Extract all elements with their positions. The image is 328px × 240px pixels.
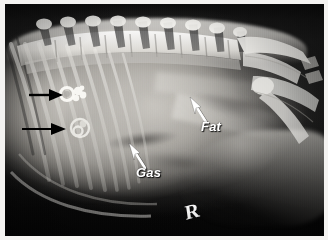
dorsal-muscle-band xyxy=(7,18,307,64)
film-vignette xyxy=(5,4,324,236)
mineral-opacity-caudal xyxy=(65,115,95,141)
pelvis-and-femur xyxy=(5,4,324,236)
ribcage xyxy=(5,4,324,236)
radiograph-plate: Fat Gas R xyxy=(5,4,324,236)
annotation-label-fat: Fat xyxy=(201,119,221,134)
film-grain xyxy=(5,4,324,236)
abdomen-soft-tissue-inner xyxy=(65,38,275,188)
annotation-label-gas: Gas xyxy=(136,165,161,180)
hindlimb-soft-tissue xyxy=(181,130,324,226)
fat-plane-dorsal xyxy=(154,72,275,104)
black-arrow-upper xyxy=(29,87,63,103)
film-background xyxy=(5,4,324,236)
side-marker-r: R xyxy=(184,198,201,224)
radiograph-figure: Fat Gas R xyxy=(0,0,328,240)
lumbar-spine xyxy=(5,4,324,236)
black-arrow-lower xyxy=(22,121,66,137)
